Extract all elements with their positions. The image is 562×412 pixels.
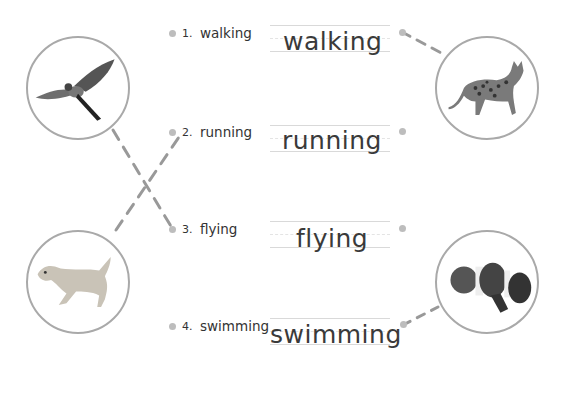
dog-icon xyxy=(28,232,128,332)
picture-clownfish[interactable] xyxy=(435,230,539,334)
match-dot-right-3[interactable] xyxy=(399,225,406,232)
list-item-running: 2. running xyxy=(169,122,252,142)
answer-text-3: flying xyxy=(296,226,368,251)
match-dot-right-1[interactable] xyxy=(399,29,406,36)
match-dot-right-2[interactable] xyxy=(399,128,406,135)
answer-text-1: walking xyxy=(283,29,382,54)
line-swimming-fish[interactable] xyxy=(403,307,438,325)
item-number: 3. xyxy=(182,223,198,236)
line-parrot-flying[interactable] xyxy=(113,130,172,228)
match-dot-right-4[interactable] xyxy=(400,321,407,328)
list-item-walking: 1. walking xyxy=(169,23,252,43)
parrot-icon xyxy=(28,38,128,138)
fish-icon xyxy=(437,232,537,332)
matching-worksheet: 1. walking walking 2. running running 3.… xyxy=(0,0,562,412)
item-word: running xyxy=(200,124,252,140)
picture-cat[interactable] xyxy=(435,36,539,140)
match-dot-left-1[interactable] xyxy=(169,30,176,37)
item-word: swimming xyxy=(200,318,269,334)
answer-text-2: running xyxy=(282,128,382,153)
list-item-swimming: 4. swimming xyxy=(169,316,269,336)
item-word: flying xyxy=(200,221,237,237)
item-word: walking xyxy=(200,25,252,41)
picture-dog[interactable] xyxy=(26,230,130,334)
picture-parrot[interactable] xyxy=(26,36,130,140)
cat-icon xyxy=(437,38,537,138)
item-number: 1. xyxy=(182,27,198,40)
match-dot-left-3[interactable] xyxy=(169,226,176,233)
answer-text-4: swimming xyxy=(270,322,402,347)
match-dot-left-2[interactable] xyxy=(169,129,176,136)
list-item-flying: 3. flying xyxy=(169,219,237,239)
line-dog-running[interactable] xyxy=(116,137,179,230)
item-number: 4. xyxy=(182,320,198,333)
item-number: 2. xyxy=(182,126,198,139)
match-dot-left-4[interactable] xyxy=(169,323,176,330)
